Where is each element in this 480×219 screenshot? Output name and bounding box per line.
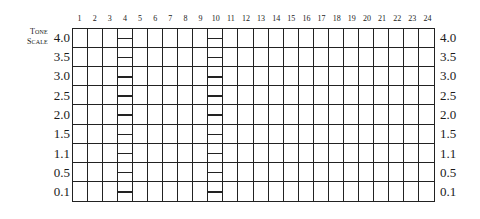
- grid-cell: [389, 105, 404, 124]
- grid-cell: [374, 182, 389, 201]
- grid-cell: [103, 86, 118, 105]
- grid-cell: [178, 144, 193, 163]
- grid-cell: [88, 125, 103, 144]
- grid-cell: [374, 86, 389, 105]
- grid-cell: [238, 163, 253, 182]
- grid-cell: [299, 182, 314, 201]
- grid-cell: [133, 67, 148, 86]
- grid-cell: [389, 125, 404, 144]
- grid-cell: [389, 182, 404, 201]
- grid-cell: [359, 144, 374, 163]
- grid-cell: [284, 86, 299, 105]
- grid-cell: [178, 105, 193, 124]
- grid-cell: [103, 29, 118, 48]
- tone-scale-label: Tone Scale: [4, 27, 48, 47]
- grid-cell: [103, 182, 118, 201]
- grid-cell: [299, 29, 314, 48]
- grid-cell: [73, 105, 88, 124]
- grid-cell-marked: [118, 125, 133, 144]
- grid-cell: [314, 105, 329, 124]
- grid-cell: [329, 86, 344, 105]
- grid-cell: [73, 125, 88, 144]
- grid-cell: [419, 182, 434, 201]
- grid-cell: [223, 29, 238, 48]
- grid-cell-marked: [118, 48, 133, 67]
- column-header: 5: [133, 13, 148, 25]
- grid-cell: [299, 86, 314, 105]
- grid-cell: [269, 67, 284, 86]
- grid-cell: [344, 105, 359, 124]
- tone-scale-line-2: Scale: [4, 37, 48, 47]
- grid-cell: [73, 67, 88, 86]
- grid-cell: [88, 182, 103, 201]
- row-label: 0.1: [440, 183, 470, 202]
- row-label: 0.5: [440, 163, 470, 182]
- grid-cell: [389, 29, 404, 48]
- grid-cell: [88, 48, 103, 67]
- grid-cell: [163, 163, 178, 182]
- grid-cell: [103, 163, 118, 182]
- column-header: 14: [269, 13, 284, 25]
- grid-cell: [344, 144, 359, 163]
- column-header: 17: [314, 13, 329, 25]
- grid-cell: [284, 105, 299, 124]
- grid-cell: [284, 163, 299, 182]
- grid-cell: [223, 182, 238, 201]
- grid-cell-marked: [208, 182, 223, 201]
- row-label: 2.0: [440, 105, 470, 124]
- grid-cell: [314, 29, 329, 48]
- grid-cell: [389, 67, 404, 86]
- grid-cell: [359, 105, 374, 124]
- grid-cell: [254, 48, 269, 67]
- grid-cell: [73, 163, 88, 182]
- grid-cell: [88, 29, 103, 48]
- grid-cell: [148, 105, 163, 124]
- grid-cell: [238, 29, 253, 48]
- grid-cell: [269, 182, 284, 201]
- grid-cell: [419, 125, 434, 144]
- grid-cell: [73, 29, 88, 48]
- grid-cell: [344, 48, 359, 67]
- row-label: 0.1: [48, 183, 70, 202]
- grid-cell: [284, 125, 299, 144]
- grid-cell: [103, 67, 118, 86]
- column-header: 19: [344, 13, 359, 25]
- row-label: 3.0: [440, 67, 470, 86]
- grid-cell: [238, 182, 253, 201]
- grid-cell: [419, 67, 434, 86]
- grid-cell: [284, 182, 299, 201]
- grid-cell: [299, 105, 314, 124]
- tone-scale-grid: [72, 28, 435, 202]
- column-header: 7: [163, 13, 178, 25]
- grid-cell: [344, 67, 359, 86]
- grid-cell: [223, 144, 238, 163]
- grid-cell: [389, 144, 404, 163]
- grid-cell: [404, 29, 419, 48]
- grid-cell: [148, 48, 163, 67]
- grid-cell: [419, 48, 434, 67]
- grid-cell: [178, 125, 193, 144]
- grid-cell: [193, 144, 208, 163]
- row-label: 3.5: [48, 47, 70, 66]
- row-label: 1.5: [440, 125, 470, 144]
- column-header: 12: [238, 13, 253, 25]
- grid-cell: [359, 29, 374, 48]
- grid-cell: [314, 48, 329, 67]
- grid-cell: [269, 48, 284, 67]
- grid-cell: [193, 48, 208, 67]
- column-header: 2: [87, 13, 102, 25]
- grid-cell: [133, 29, 148, 48]
- row-label: 1.1: [48, 144, 70, 163]
- grid-cell: [269, 163, 284, 182]
- grid-cell: [178, 182, 193, 201]
- tone-scale-line-1: Tone: [4, 27, 48, 37]
- column-header: 24: [420, 13, 435, 25]
- column-header: 22: [390, 13, 405, 25]
- grid-cell: [148, 182, 163, 201]
- column-header: 18: [329, 13, 344, 25]
- grid-cell: [103, 48, 118, 67]
- grid-cell: [254, 163, 269, 182]
- grid-cell: [103, 125, 118, 144]
- grid-cell: [419, 144, 434, 163]
- grid-cell: [404, 105, 419, 124]
